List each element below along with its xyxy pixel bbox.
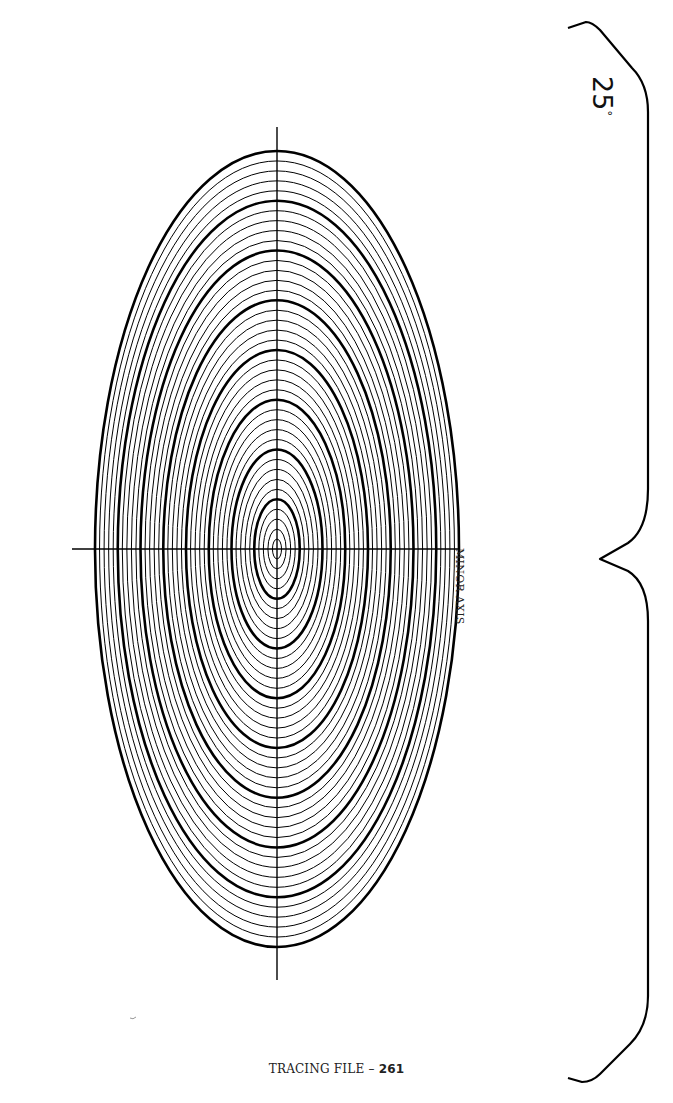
ellipse-template-diagram	[0, 0, 673, 1103]
minor-axis-label: MINOR AXIS	[453, 548, 466, 625]
curly-brace	[568, 22, 648, 1082]
degree-symbol: °	[600, 110, 614, 116]
angle-value: 25	[587, 76, 618, 110]
page-caption: TRACING FILE – 261	[0, 1062, 673, 1076]
tracing-sheet: 25° MINOR AXIS TRACING FILE – 261	[0, 0, 673, 1103]
stray-mark	[130, 1017, 136, 1019]
caption-title: TRACING FILE –	[269, 1062, 379, 1076]
page-number: 261	[379, 1062, 405, 1076]
angle-label: 25°	[587, 76, 618, 116]
